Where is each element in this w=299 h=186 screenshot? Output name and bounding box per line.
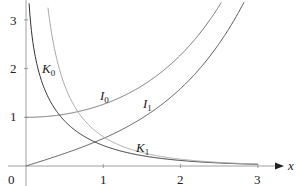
curve-K1 <box>48 8 258 164</box>
x-axis-arrow-icon <box>275 163 284 170</box>
label-K0: K0 <box>41 61 56 78</box>
y-tick-3: 3 <box>10 13 17 28</box>
curve-I1 <box>26 2 244 166</box>
x-axis-label: x <box>287 158 294 173</box>
y-tick-1: 1 <box>10 109 17 124</box>
label-I1: I1 <box>142 96 152 113</box>
curve-I0 <box>26 2 221 117</box>
x-tick-1: 1 <box>100 172 107 186</box>
label-K1: K1 <box>135 140 149 157</box>
label-I0: I0 <box>99 88 109 105</box>
bessel-chart: 0 1 2 3 1 2 3 x K0 I0 I1 K1 <box>0 0 299 186</box>
x-tick-3: 3 <box>254 172 261 186</box>
x-tick-2: 2 <box>177 172 184 186</box>
y-tick-2: 2 <box>10 61 17 76</box>
origin-label: 0 <box>8 172 15 186</box>
